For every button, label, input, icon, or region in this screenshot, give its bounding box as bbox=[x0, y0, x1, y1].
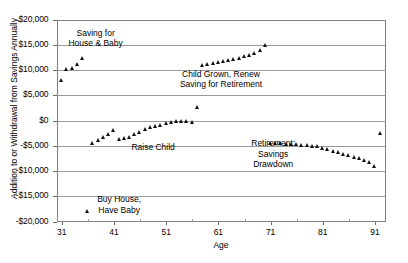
data-point-marker bbox=[80, 56, 84, 60]
annotation-saving-house-baby: Saving for House & Baby bbox=[26, 28, 166, 49]
data-point-marker bbox=[237, 56, 241, 60]
data-point-marker bbox=[122, 136, 126, 140]
data-point-marker bbox=[367, 160, 371, 164]
savings-lifecycle-chart: $20,000$15,000$10,000$5,000$0-$5,000-$10… bbox=[0, 0, 408, 263]
data-point-marker bbox=[252, 51, 256, 55]
data-point-marker bbox=[70, 66, 74, 70]
data-point-marker bbox=[190, 120, 194, 124]
data-point-marker bbox=[75, 62, 79, 66]
annotation-buy-house-have-baby: Buy House, Have Baby bbox=[49, 194, 189, 215]
x-tick-mark-minor bbox=[245, 219, 246, 222]
data-point-marker bbox=[158, 123, 162, 127]
x-tick-label: 41 bbox=[94, 228, 134, 237]
y-tick-label: -$20,000 bbox=[0, 217, 49, 226]
gridline-y bbox=[57, 95, 386, 96]
x-tick-mark bbox=[166, 222, 167, 225]
data-point-marker bbox=[263, 43, 267, 47]
y-tick-mark bbox=[53, 70, 57, 71]
y-axis-title: Addition to or Withdrawal from Savings A… bbox=[9, 18, 19, 199]
data-point-marker bbox=[357, 156, 361, 160]
data-point-marker bbox=[148, 125, 152, 129]
annotation-retirement-drawdown: Retirement: Savings Drawdown bbox=[203, 138, 343, 170]
x-tick-mark bbox=[218, 222, 219, 225]
data-point-marker bbox=[226, 58, 230, 62]
data-point-marker bbox=[231, 57, 235, 61]
x-tick-label: 71 bbox=[251, 228, 291, 237]
x-tick-mark-minor bbox=[297, 219, 298, 222]
x-tick-label: 61 bbox=[198, 228, 238, 237]
gridline-y bbox=[57, 171, 386, 172]
y-tick-mark bbox=[53, 20, 57, 21]
data-point-marker bbox=[200, 63, 204, 67]
data-point-marker bbox=[247, 53, 251, 57]
x-tick-label: 51 bbox=[146, 228, 186, 237]
data-point-marker bbox=[64, 67, 68, 71]
data-point-marker bbox=[221, 59, 225, 63]
y-tick-label: $20,000 bbox=[0, 15, 49, 24]
y-tick-label: $10,000 bbox=[0, 65, 49, 74]
gridline-y bbox=[57, 121, 386, 122]
x-tick-label: 81 bbox=[303, 228, 343, 237]
data-point-marker bbox=[242, 54, 246, 58]
y-tick-mark bbox=[53, 95, 57, 96]
x-tick-mark-minor bbox=[88, 219, 89, 222]
x-tick-mark-minor bbox=[349, 219, 350, 222]
x-tick-label: 91 bbox=[355, 228, 395, 237]
annotation-child-grown-renew: Child Grown, Renew Saving for Retirement bbox=[151, 69, 291, 90]
annotation-raise-child: Raise Child bbox=[83, 142, 223, 153]
y-tick-label: -$15,000 bbox=[0, 191, 49, 200]
data-point-marker bbox=[59, 78, 63, 82]
data-point-marker bbox=[132, 132, 136, 136]
data-point-marker bbox=[174, 119, 178, 123]
y-tick-label: $0 bbox=[0, 116, 49, 125]
data-point-marker bbox=[137, 130, 141, 134]
data-point-marker bbox=[372, 164, 376, 168]
y-tick-label: -$10,000 bbox=[0, 166, 49, 175]
y-tick-mark bbox=[53, 146, 57, 147]
data-point-marker bbox=[362, 158, 366, 162]
data-point-marker bbox=[378, 131, 382, 135]
y-tick-mark bbox=[53, 121, 57, 122]
x-tick-mark bbox=[62, 222, 63, 225]
data-point-marker bbox=[164, 121, 168, 125]
y-tick-mark bbox=[53, 171, 57, 172]
data-point-marker bbox=[195, 105, 199, 109]
data-point-marker bbox=[184, 119, 188, 123]
x-tick-mark-minor bbox=[192, 219, 193, 222]
data-point-marker bbox=[169, 120, 173, 124]
x-tick-label: 31 bbox=[42, 228, 82, 237]
x-tick-mark bbox=[323, 222, 324, 225]
data-point-marker bbox=[258, 48, 262, 52]
data-point-marker bbox=[216, 60, 220, 64]
data-point-marker bbox=[106, 132, 110, 136]
data-point-marker bbox=[101, 135, 105, 139]
data-point-marker bbox=[117, 137, 121, 141]
data-point-marker bbox=[179, 119, 183, 123]
y-tick-mark bbox=[53, 222, 57, 223]
x-tick-mark bbox=[114, 222, 115, 225]
data-point-marker bbox=[211, 61, 215, 65]
data-point-marker bbox=[352, 155, 356, 159]
data-point-marker bbox=[153, 124, 157, 128]
y-tick-label: -$5,000 bbox=[0, 141, 49, 150]
data-point-marker bbox=[346, 153, 350, 157]
x-tick-mark bbox=[375, 222, 376, 225]
data-point-marker bbox=[143, 127, 147, 131]
y-tick-label: $5,000 bbox=[0, 90, 49, 99]
data-point-marker bbox=[111, 128, 115, 132]
data-point-marker bbox=[205, 62, 209, 66]
x-tick-mark bbox=[271, 222, 272, 225]
x-axis-title: Age bbox=[161, 240, 281, 250]
data-point-marker bbox=[127, 135, 131, 139]
x-tick-mark-minor bbox=[140, 219, 141, 222]
